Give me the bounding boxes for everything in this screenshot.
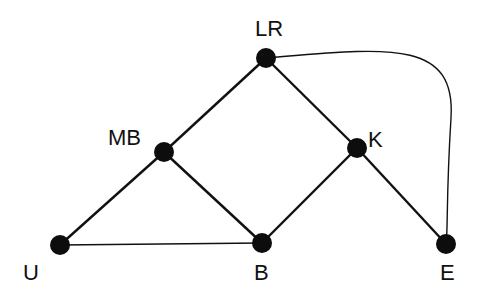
node-b [252, 233, 272, 253]
node-k [347, 138, 367, 158]
node-label-k: K [368, 129, 383, 151]
edge-k-e [357, 148, 446, 244]
edge-u-b [60, 243, 262, 245]
node-label-b: B [254, 262, 269, 284]
graph-diagram: LRMBKUBE [0, 0, 490, 297]
node-u [50, 235, 70, 255]
graph-edges-and-nodes [0, 0, 490, 297]
node-mb [154, 142, 174, 162]
node-label-u: U [23, 262, 39, 284]
edge-k-b [262, 148, 357, 243]
node-lr [256, 48, 276, 68]
edge-mb-u [60, 152, 164, 245]
node-label-lr: LR [255, 18, 283, 40]
edge-lr-k [266, 58, 357, 148]
node-e [436, 234, 456, 254]
edge-lr-mb [164, 58, 266, 152]
edge-mb-b [164, 152, 262, 243]
node-label-mb: MB [108, 127, 141, 149]
node-label-e: E [440, 262, 455, 284]
